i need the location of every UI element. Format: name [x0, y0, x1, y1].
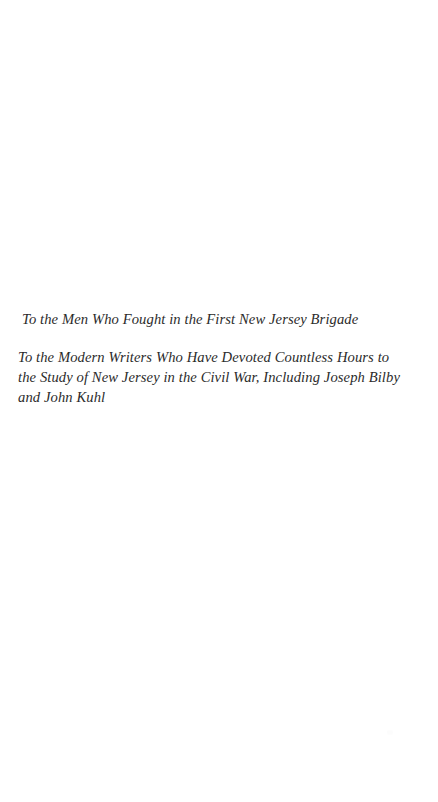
dedication-page: To the Men Who Fought in the First New J…: [0, 0, 438, 802]
scan-speck-artifact: [387, 730, 393, 735]
dedication-primary-text: To the Men Who Fought in the First New J…: [22, 309, 422, 329]
dedication-secondary-text: To the Modern Writers Who Have Devoted C…: [18, 347, 410, 407]
